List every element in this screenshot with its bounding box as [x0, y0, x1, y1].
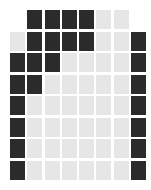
light-tile[interactable] — [79, 96, 94, 115]
light-tile[interactable] — [114, 161, 129, 180]
light-tile[interactable] — [114, 10, 129, 29]
light-tile[interactable] — [62, 53, 77, 72]
light-tile[interactable] — [45, 75, 60, 94]
light-tile[interactable] — [27, 161, 42, 180]
dark-tile[interactable] — [131, 139, 146, 158]
light-tile[interactable] — [79, 53, 94, 72]
dark-tile[interactable] — [131, 32, 146, 51]
dark-tile[interactable] — [62, 10, 77, 29]
dark-tile[interactable] — [10, 96, 25, 115]
light-tile[interactable] — [27, 118, 42, 137]
dark-tile[interactable] — [45, 32, 60, 51]
light-tile[interactable] — [96, 75, 111, 94]
light-tile[interactable] — [27, 139, 42, 158]
dark-tile[interactable] — [131, 75, 146, 94]
dark-tile[interactable] — [62, 32, 77, 51]
dark-tile[interactable] — [27, 10, 42, 29]
dark-tile[interactable] — [27, 32, 42, 51]
light-tile[interactable] — [79, 118, 94, 137]
light-tile[interactable] — [45, 118, 60, 137]
light-tile[interactable] — [45, 161, 60, 180]
dark-tile[interactable] — [131, 96, 146, 115]
dark-tile[interactable] — [27, 53, 42, 72]
dark-tile[interactable] — [10, 53, 25, 72]
light-tile[interactable] — [45, 96, 60, 115]
light-tile[interactable] — [62, 161, 77, 180]
dark-tile[interactable] — [79, 32, 94, 51]
light-tile[interactable] — [62, 118, 77, 137]
dark-tile[interactable] — [45, 10, 60, 29]
light-tile[interactable] — [114, 118, 129, 137]
light-tile[interactable] — [114, 96, 129, 115]
dark-tile[interactable] — [45, 53, 60, 72]
light-tile[interactable] — [79, 161, 94, 180]
dark-tile[interactable] — [10, 139, 25, 158]
light-tile[interactable] — [62, 75, 77, 94]
light-tile[interactable] — [114, 53, 129, 72]
dark-tile[interactable] — [131, 53, 146, 72]
dark-tile[interactable] — [10, 118, 25, 137]
light-tile[interactable] — [96, 161, 111, 180]
dark-tile[interactable] — [131, 118, 146, 137]
light-tile[interactable] — [62, 96, 77, 115]
light-tile[interactable] — [45, 139, 60, 158]
empty-slot — [131, 10, 146, 29]
light-tile[interactable] — [114, 32, 129, 51]
light-tile[interactable] — [96, 10, 111, 29]
light-tile[interactable] — [79, 75, 94, 94]
light-tile[interactable] — [10, 32, 25, 51]
light-tile[interactable] — [27, 96, 42, 115]
light-tile[interactable] — [114, 139, 129, 158]
dark-tile[interactable] — [131, 161, 146, 180]
light-tile[interactable] — [96, 32, 111, 51]
light-tile[interactable] — [96, 96, 111, 115]
light-tile[interactable] — [96, 53, 111, 72]
light-tile[interactable] — [114, 75, 129, 94]
dark-tile[interactable] — [79, 10, 94, 29]
light-tile[interactable] — [79, 139, 94, 158]
tile-grid — [10, 10, 146, 180]
dark-tile[interactable] — [10, 161, 25, 180]
empty-slot — [10, 10, 25, 29]
light-tile[interactable] — [62, 139, 77, 158]
light-tile[interactable] — [96, 139, 111, 158]
dark-tile[interactable] — [27, 75, 42, 94]
light-tile[interactable] — [96, 118, 111, 137]
dark-tile[interactable] — [10, 75, 25, 94]
